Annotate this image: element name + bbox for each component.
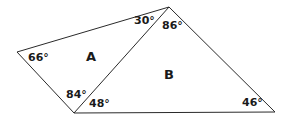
triangle-diagram: A B 66° 30° 84° 86° 48° 46° xyxy=(0,0,287,118)
angle-label-84: 84° xyxy=(66,89,87,100)
region-label-a: A xyxy=(86,50,96,63)
angle-label-30: 30° xyxy=(134,15,155,26)
angle-label-46: 46° xyxy=(242,97,263,108)
angle-label-66: 66° xyxy=(28,52,49,63)
region-label-b: B xyxy=(164,68,174,81)
angle-label-48: 48° xyxy=(89,98,110,109)
angle-label-86: 86° xyxy=(162,20,183,31)
